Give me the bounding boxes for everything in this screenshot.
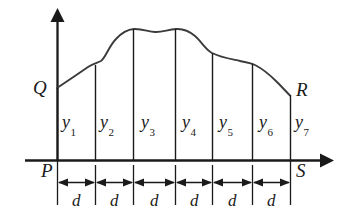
dimension-arrowhead-left-3	[134, 179, 144, 187]
dimension-arrowhead-right-6	[280, 179, 290, 187]
ordinate-label-5: y5	[219, 113, 233, 131]
ordinate-label-4: y4	[182, 113, 196, 131]
ordinate-label-6-sub: 6	[268, 126, 274, 138]
curve-group	[57, 29, 290, 96]
spacing-label-2: d	[110, 192, 119, 209]
dimension-arrowhead-left-2	[96, 179, 106, 187]
curve-qr	[57, 29, 290, 96]
ordinate-label-6: y6	[259, 113, 273, 131]
vertical-axis-arrow-icon	[51, 8, 65, 22]
dimension-arrowhead-left-4	[176, 179, 186, 187]
ordinates-group	[58, 29, 291, 160]
ordinate-label-2-base: y	[100, 112, 108, 132]
ordinate-diagram: Q R P S y1 y2 y3 y4 y5 y6 y7 d d d d d d	[0, 0, 348, 223]
dimension-arrowhead-right-3	[165, 179, 175, 187]
ordinate-label-3: y3	[141, 113, 155, 131]
axes-group	[25, 8, 334, 168]
ordinate-label-4-base: y	[182, 112, 190, 132]
label-origin-p: P	[41, 161, 53, 180]
label-curve-start-q: Q	[33, 78, 47, 97]
dimension-arrowhead-right-1	[85, 179, 95, 187]
ordinate-label-5-sub: 5	[228, 126, 234, 138]
label-curve-end-r: R	[296, 80, 308, 99]
ordinate-label-1-sub: 1	[71, 126, 77, 138]
label-base-end-s: S	[296, 161, 306, 180]
ordinate-label-2-sub: 2	[109, 126, 115, 138]
ordinate-label-3-sub: 3	[150, 126, 156, 138]
dimension-arrows-group	[58, 179, 290, 187]
spacing-label-6: d	[267, 192, 276, 209]
dimension-arrowhead-right-5	[242, 179, 252, 187]
ordinate-label-1: y1	[62, 113, 76, 131]
dimension-arrowhead-left-6	[253, 179, 263, 187]
ordinate-label-6-base: y	[259, 112, 267, 132]
dimension-arrowhead-left-1	[58, 179, 68, 187]
ordinate-label-1-base: y	[62, 112, 70, 132]
dimension-arrowhead-right-4	[202, 179, 212, 187]
ordinate-label-7: y7	[295, 113, 309, 131]
ordinate-label-7-sub: 7	[304, 126, 310, 138]
dimension-arrowhead-left-5	[213, 179, 223, 187]
spacing-label-5: d	[228, 192, 237, 209]
spacing-label-1: d	[72, 192, 81, 209]
ordinate-label-5-base: y	[219, 112, 227, 132]
ordinate-label-4-sub: 4	[191, 126, 197, 138]
spacing-label-4: d	[190, 192, 199, 209]
ordinate-label-3-base: y	[141, 112, 149, 132]
dimension-arrowhead-right-2	[123, 179, 133, 187]
ordinate-label-2: y2	[100, 113, 114, 131]
horizontal-axis-arrow-icon	[320, 154, 334, 168]
ordinate-label-7-base: y	[295, 112, 303, 132]
spacing-label-3: d	[150, 192, 159, 209]
